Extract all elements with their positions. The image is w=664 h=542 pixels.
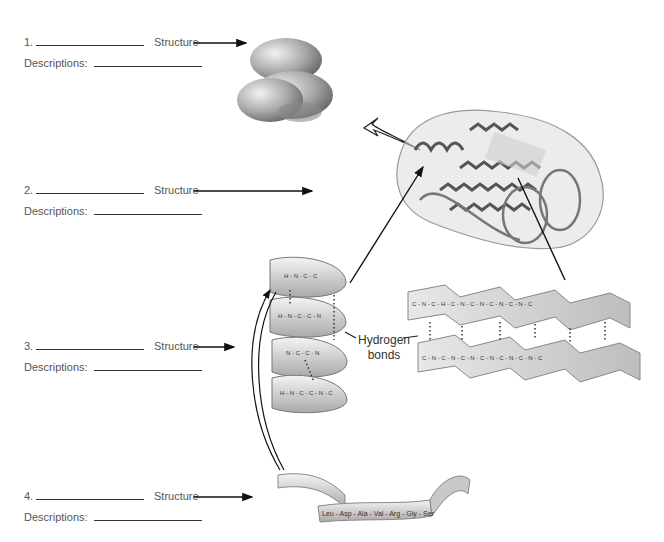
svg-text:C - N - C - H - C - N - C - N: C - N - C - H - C - N - C - N - C - N - …: [412, 301, 533, 307]
alpha-helix-icon: H - N - C - C H - N - C - C - N N - C - …: [270, 257, 347, 412]
tertiary-structure-icon: [397, 110, 603, 249]
amino-acid-sequence: Leu - Asp - Ala - Val - Arg - Gly - Ser: [322, 510, 435, 518]
beta-sheet-icon: C - N - C - H - C - N - C - N - C - N - …: [408, 285, 640, 382]
svg-text:C - N - C - N - C - N - C - N: C - N - C - N - C - N - C - N - C - N - …: [422, 355, 543, 361]
label-line-2: bonds: [358, 348, 410, 363]
primary-structure-ribbon-icon: Leu - Asp - Ala - Val - Arg - Gly - Ser: [278, 474, 470, 522]
svg-text:H - N - C - C - N - C: H - N - C - C - N - C: [280, 390, 333, 396]
svg-text:N - C - C - N: N - C - C - N: [286, 350, 319, 356]
hydrogen-bonds-label: Hydrogen bonds: [358, 333, 410, 363]
svg-text:H - N - C - C: H - N - C - C: [284, 273, 318, 279]
svg-text:H - N - C - C - N: H - N - C - C - N: [278, 313, 321, 319]
protein-structure-illustration: H - N - C - C H - N - C - C - N N - C - …: [0, 0, 664, 542]
quaternary-structure-icon: [237, 38, 333, 122]
label-line-1: Hydrogen: [358, 333, 410, 348]
